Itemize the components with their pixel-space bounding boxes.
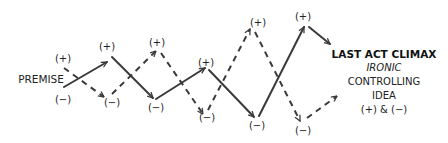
start-plus-label: (+) <box>55 53 71 64</box>
solid-vertex-label: (+) <box>99 41 115 52</box>
climax-plus-minus-label: (+) & (−) <box>332 103 437 117</box>
solid-arrow-6 <box>309 27 330 44</box>
climax-title: LAST ACT CLIMAX <box>332 47 437 61</box>
premise-label: PREMISE <box>18 73 64 85</box>
solid-vertex-label: (−) <box>148 102 164 113</box>
solid-arrow-5 <box>259 27 304 116</box>
dashed-arrow-4 <box>208 29 250 110</box>
solid-vertex-label: (−) <box>249 120 265 131</box>
climax-idea-label: IDEA <box>332 89 437 103</box>
climax-ironic-label: IRONIC <box>332 61 437 75</box>
dashed-vertex-label: (+) <box>149 37 165 48</box>
dashed-vertex-label: (−) <box>199 112 215 123</box>
dashed-arrow-5 <box>255 32 300 121</box>
dashed-arrow-3 <box>161 53 203 114</box>
dashed-vertex-label: (+) <box>250 17 266 28</box>
climax-text-block: LAST ACT CLIMAX IRONIC CONTROLLING IDEA … <box>332 47 437 117</box>
dashed-arrow-2 <box>112 51 156 94</box>
climax-controlling-label: CONTROLLING <box>332 75 437 89</box>
dashed-vertex-label: (−) <box>295 125 311 136</box>
solid-vertex-label: (+) <box>295 11 311 22</box>
solid-arrow-3 <box>156 68 205 99</box>
dashed-vertex-label: (−) <box>104 97 120 108</box>
solid-arrow-4 <box>209 70 254 117</box>
start-minus-label: (−) <box>55 94 71 105</box>
solid-vertex-label: (+) <box>198 57 214 68</box>
solid-arrow-2 <box>112 57 153 98</box>
